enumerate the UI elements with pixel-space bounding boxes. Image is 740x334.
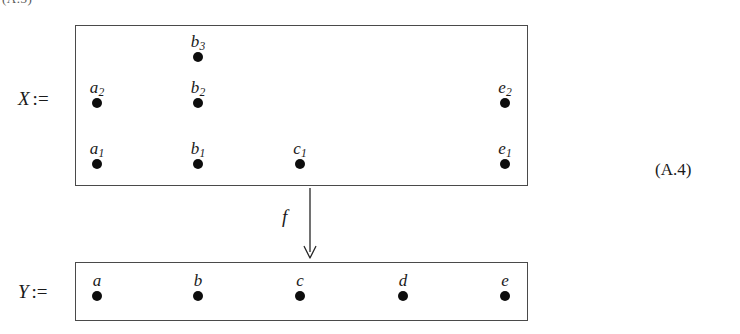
codomain-element-dot-b — [193, 291, 203, 301]
codomain-element-dot-c — [295, 291, 305, 301]
domain-element-label-b2: b2 — [191, 79, 205, 96]
domain-element-dot-c1 — [295, 159, 305, 169]
codomain-set-label: Y:= — [18, 281, 48, 303]
figure-canvas: (A.3) X:= Y:= f (A.4) b3a2b2e2a1b1c1e1ab… — [0, 0, 740, 334]
domain-element-label-b1: b1 — [191, 140, 205, 157]
codomain-element-label-b: b — [194, 272, 203, 289]
domain-element-label-e1: e1 — [498, 140, 511, 157]
equation-number: (A.4) — [655, 160, 691, 180]
domain-element-subscript-e2: 2 — [506, 86, 512, 99]
assign-symbol-y: := — [29, 281, 48, 302]
map-arrow-group: f — [292, 188, 332, 260]
domain-element-label-e2: e2 — [498, 79, 511, 96]
domain-element-label-b3: b3 — [191, 33, 205, 50]
codomain-element-label-d: d — [399, 272, 408, 289]
domain-element-label-a2: a2 — [90, 79, 104, 96]
domain-element-dot-b3 — [193, 52, 203, 62]
domain-element-subscript-a1: 1 — [99, 147, 105, 160]
domain-element-subscript-b1: 1 — [200, 147, 206, 160]
codomain-element-label-a: a — [93, 272, 102, 289]
domain-element-dot-e1 — [500, 159, 510, 169]
codomain-element-dot-a — [92, 291, 102, 301]
cut-off-equation-number: (A.3) — [2, 0, 32, 7]
domain-element-dot-a1 — [92, 159, 102, 169]
domain-element-dot-b1 — [193, 159, 203, 169]
codomain-element-dot-d — [398, 291, 408, 301]
domain-element-subscript-b3: 3 — [200, 40, 206, 53]
codomain-element-label-c: c — [296, 272, 304, 289]
domain-element-subscript-e1: 1 — [506, 147, 512, 160]
domain-element-dot-e2 — [500, 98, 510, 108]
domain-set-name: X — [18, 88, 30, 109]
map-function-label: f — [282, 206, 287, 228]
down-arrow-icon — [300, 188, 320, 260]
domain-element-label-a1: a1 — [90, 140, 104, 157]
domain-element-subscript-b2: 2 — [200, 86, 206, 99]
domain-element-subscript-a2: 2 — [99, 86, 105, 99]
domain-element-dot-a2 — [92, 98, 102, 108]
codomain-element-label-e: e — [501, 272, 509, 289]
codomain-set-name: Y — [18, 281, 29, 302]
domain-element-dot-b2 — [193, 98, 203, 108]
domain-set-label: X:= — [18, 88, 49, 110]
assign-symbol-x: := — [30, 88, 49, 109]
domain-element-label-c1: c1 — [293, 140, 306, 157]
domain-element-subscript-c1: 1 — [301, 147, 307, 160]
codomain-element-dot-e — [500, 291, 510, 301]
